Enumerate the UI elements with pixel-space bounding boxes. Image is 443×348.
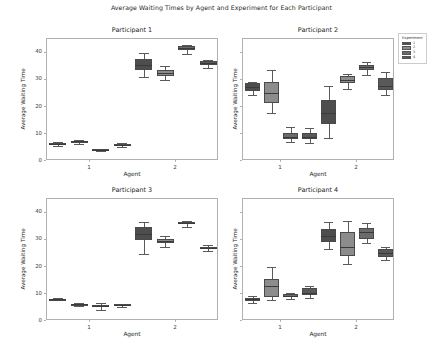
legend-entry[interactable]: 4 (402, 56, 423, 60)
y-tick-mark (44, 79, 46, 80)
median-line (135, 65, 152, 66)
y-tick-mark (240, 79, 242, 80)
y-tick-mark (240, 106, 242, 107)
subplot-participant-3: Participant 3010203040Average Waiting Ti… (12, 186, 212, 344)
median-line (378, 86, 393, 87)
plot-area (242, 198, 394, 320)
cap-lower (343, 89, 352, 90)
cap-lower (160, 247, 170, 248)
whisker-lower (144, 240, 145, 254)
subplot-participant-2: Participant 2Average Waiting Time12Agent (220, 26, 400, 181)
median-line (245, 87, 260, 88)
x-tick-label: 1 (270, 164, 290, 170)
cap-lower (96, 151, 106, 152)
whisker-upper (272, 267, 273, 279)
cap-upper (343, 74, 352, 75)
box-iqr (340, 232, 355, 257)
legend-entries: 1234 (402, 42, 423, 60)
median-line (340, 80, 355, 81)
y-tick-mark (44, 160, 46, 161)
median-line (264, 286, 279, 287)
cap-lower (343, 264, 352, 265)
box-iqr (302, 288, 317, 295)
median-line (200, 248, 217, 249)
x-tick-label: 2 (165, 324, 185, 330)
cap-upper (381, 72, 390, 73)
box-iqr (378, 78, 393, 90)
cap-lower (117, 307, 127, 308)
whisker-lower (348, 256, 349, 264)
x-tick-mark (356, 320, 357, 322)
y-tick-mark (44, 212, 46, 213)
cap-lower (324, 249, 333, 250)
median-line (200, 63, 217, 64)
y-tick-mark (240, 52, 242, 53)
cap-lower (305, 298, 314, 299)
y-tick-mark (44, 266, 46, 267)
data-layer (243, 199, 393, 319)
cap-lower (182, 227, 192, 228)
median-line (283, 137, 298, 138)
y-tick-mark (44, 52, 46, 53)
cap-upper (324, 86, 333, 87)
cap-lower (248, 95, 257, 96)
y-tick-label: 20 (24, 263, 42, 269)
data-layer (47, 39, 217, 159)
y-tick-label: 0 (24, 317, 42, 323)
cap-upper (203, 245, 213, 246)
y-tick-mark (44, 293, 46, 294)
legend-title: Experiment (402, 36, 423, 40)
subplot-title: Participant 3 (46, 186, 218, 194)
figure-title: Average Waiting Times by Agent and Exper… (0, 4, 443, 11)
box-iqr (264, 279, 279, 297)
y-tick-label: 40 (24, 208, 42, 214)
subplot-title: Participant 4 (242, 186, 394, 194)
legend-swatch (402, 42, 411, 46)
y-axis-label: Average Waiting Time (232, 198, 238, 320)
y-tick-mark (240, 266, 242, 267)
median-line (157, 73, 174, 74)
cap-upper (305, 286, 314, 287)
box-iqr (321, 100, 336, 124)
y-tick-label: 10 (24, 130, 42, 136)
whisker-upper (348, 221, 349, 232)
box-iqr (359, 228, 374, 239)
median-line (359, 67, 374, 68)
median-line (114, 305, 131, 306)
cap-lower (182, 54, 192, 55)
cap-lower (53, 146, 63, 147)
median-line (302, 293, 317, 294)
cap-upper (160, 66, 170, 67)
median-line (378, 253, 393, 254)
median-line (178, 48, 195, 49)
cap-lower (117, 147, 127, 148)
cap-upper (286, 127, 295, 128)
x-axis-label: Agent (46, 171, 218, 177)
cap-upper (381, 247, 390, 248)
median-line (321, 113, 336, 114)
y-tick-mark (44, 133, 46, 134)
y-tick-label: 10 (24, 290, 42, 296)
cap-upper (362, 62, 371, 63)
legend-swatch (402, 46, 411, 50)
figure-canvas: Average Waiting Times by Agent and Exper… (0, 0, 443, 348)
cap-lower (267, 113, 276, 114)
cap-lower (286, 142, 295, 143)
y-tick-mark (240, 133, 242, 134)
median-line (92, 150, 109, 151)
median-line (283, 296, 298, 297)
subplot-title: Participant 1 (46, 26, 218, 34)
cap-upper (267, 267, 276, 268)
y-tick-label: 20 (24, 103, 42, 109)
x-tick-label: 1 (270, 324, 290, 330)
median-line (302, 137, 317, 138)
y-tick-mark (44, 106, 46, 107)
y-tick-mark (44, 320, 46, 321)
x-tick-mark (280, 320, 281, 322)
median-line (49, 144, 66, 145)
x-tick-mark (89, 160, 90, 162)
x-tick-mark (356, 160, 357, 162)
data-layer (243, 39, 393, 159)
cap-lower (267, 300, 276, 301)
plot-area (242, 38, 394, 160)
